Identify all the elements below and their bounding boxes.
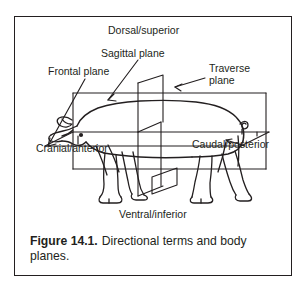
traverse-plane-label-line1: Traverse: [209, 62, 250, 74]
traverse-plane-label: Traverse plane: [209, 63, 259, 86]
caudal-posterior-label: Caudal/posterior: [192, 139, 269, 151]
figure-page: Dorsal/superior Sagittal plane Frontal p…: [0, 0, 307, 292]
cranial-anterior-label: Cranial/anterior: [36, 143, 108, 155]
frontal-plane-label: Frontal plane: [48, 66, 109, 78]
traverse-plane-label-line2: plane: [209, 74, 235, 86]
sagittal-plane-label: Sagittal plane: [101, 48, 165, 60]
figure-caption-number: Figure 14.1.: [30, 234, 98, 248]
figure-caption: Figure 14.1.Directional terms and body p…: [30, 234, 270, 264]
dorsal-superior-label: Dorsal/superior: [108, 25, 179, 37]
ventral-inferior-label: Ventral/inferior: [119, 209, 187, 221]
